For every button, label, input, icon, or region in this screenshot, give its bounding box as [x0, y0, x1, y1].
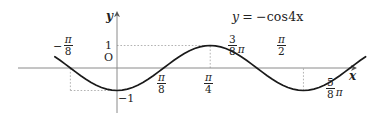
x-tick-pi-over-4: π 4: [204, 72, 213, 95]
fraction-denominator: 8: [157, 84, 166, 95]
x-tick-five-eighths-pi: 5 8 π: [326, 77, 343, 100]
y-axis-label: y: [106, 10, 113, 22]
fraction: π 4: [204, 72, 213, 95]
fraction: 5 8: [326, 77, 335, 100]
equation-rhs: −cos4x: [256, 9, 304, 24]
fraction: 3 8: [228, 34, 237, 57]
fraction-denominator: 8: [326, 89, 335, 100]
fraction: π 2: [277, 34, 286, 57]
plot-canvas: [0, 0, 375, 124]
pi-suffix: π: [237, 44, 245, 55]
fraction-numerator: π: [157, 72, 166, 84]
y-tick-minus-one: −1: [118, 93, 134, 104]
fraction-denominator: 8: [64, 46, 73, 57]
x-tick-pi-over-8: π 8: [157, 72, 166, 95]
graph-figure: y=−cos4x y x O 1 −1 − π 8 π 8 π 4 3 8 π: [0, 0, 375, 124]
x-tick-pi-over-2: π 2: [277, 34, 286, 57]
fraction-numerator: π: [204, 72, 213, 84]
x-tick-neg-pi-over-8-sign: −: [53, 41, 64, 52]
fraction-numerator: π: [64, 34, 73, 46]
equation-relation: =: [239, 9, 256, 24]
origin-label: O: [104, 52, 113, 63]
pi-suffix: π: [335, 87, 343, 98]
fraction-denominator: 8: [228, 46, 237, 57]
x-tick-three-eighths-pi: 3 8 π: [228, 34, 245, 57]
equation-label: y=−cos4x: [232, 11, 304, 24]
fraction-denominator: 4: [204, 84, 213, 95]
x-tick-neg-pi-over-8: − π 8: [53, 34, 73, 57]
fraction-numerator: 3: [228, 34, 237, 46]
y-tick-one: 1: [105, 40, 112, 51]
fraction: π 8: [157, 72, 166, 95]
fraction-denominator: 2: [277, 46, 286, 57]
fraction: π 8: [64, 34, 73, 57]
fraction-numerator: π: [277, 34, 286, 46]
fraction-numerator: 5: [326, 77, 335, 89]
x-axis-label: x: [349, 70, 356, 82]
